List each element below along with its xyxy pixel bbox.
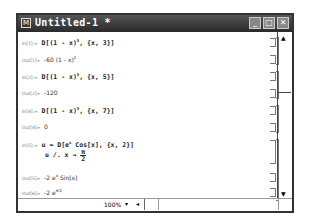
- input-text: D[(1 - x): [42, 73, 77, 81]
- cell-label: In[4]:=: [22, 109, 38, 114]
- zoom-level[interactable]: 100%: [104, 201, 121, 208]
- input-text: D[(1 - x): [42, 107, 77, 115]
- exponent: π/2: [56, 188, 62, 193]
- maximize-button[interactable]: □: [263, 17, 275, 29]
- cell-label: Out[2]=: [22, 91, 40, 96]
- denominator: 2: [81, 155, 85, 163]
- zoom-dropdown-icon[interactable]: ▾: [125, 200, 128, 207]
- input-cell-line2[interactable]: u /. x → π2: [45, 149, 86, 162]
- minimize-button[interactable]: _: [249, 17, 261, 29]
- output-text: -60 (1 - x): [44, 56, 74, 63]
- input-text: , {x, 5}]: [79, 73, 114, 81]
- cell-label: In[1]:=: [22, 41, 38, 46]
- close-button[interactable]: ✕: [277, 17, 289, 29]
- horizontal-scroll-thumb[interactable]: [144, 199, 145, 210]
- notebook-icon: M: [21, 18, 31, 28]
- input-cell[interactable]: In[1]:= D[(1 - x)5, {x, 3}]: [22, 38, 114, 47]
- cell-label: Out[6]=: [22, 191, 40, 196]
- output-text: -2 e: [44, 189, 56, 196]
- notebook-window: M Untitled-1 * _ □ ✕ In[1]:= D[(1 - x)5,…: [16, 13, 294, 213]
- scroll-up-arrow-icon[interactable]: ▲: [281, 34, 286, 41]
- output-cell: Out[4]= 0: [22, 123, 48, 130]
- cell-label: In[5]:=: [22, 143, 38, 148]
- vertical-scrollbar[interactable]: ▲ ▼: [277, 32, 292, 199]
- output-cell: Out[6]= -2 eπ/2: [22, 188, 62, 196]
- cell-label: Out[5]=: [22, 176, 40, 181]
- output-cell: Out[1]= -60 (1 - x)2: [22, 55, 76, 63]
- cell-label: Out[1]=: [22, 58, 40, 63]
- cell-label: Out[4]=: [22, 125, 40, 130]
- input-cell[interactable]: In[2]:= D[(1 - x)5, {x, 5}]: [22, 72, 114, 81]
- resize-grip[interactable]: [278, 199, 292, 210]
- window-title: Untitled-1 *: [35, 17, 111, 28]
- scroll-down-arrow-icon[interactable]: ▼: [281, 190, 286, 197]
- notebook-content[interactable]: In[1]:= D[(1 - x)5, {x, 3}] Out[1]= -60 …: [18, 32, 278, 199]
- output-text: -2 e: [44, 174, 56, 181]
- output-text: -120: [44, 89, 58, 96]
- output-cell: Out[2]= -120: [22, 89, 58, 96]
- output-text: 0: [44, 123, 48, 130]
- horizontal-scrollbar[interactable]: [158, 199, 159, 210]
- input-text: , {x, 7}]: [79, 107, 114, 115]
- input-text: D[(1 - x): [42, 39, 77, 47]
- exponent: 2: [74, 55, 77, 60]
- output-cell: Out[5]= -2 ex Sin[x]: [22, 173, 77, 181]
- status-bar: 100% ▾ ◂: [18, 198, 292, 211]
- input-text: u = D[e: [42, 141, 69, 149]
- input-cell[interactable]: In[5]:= u = D[ex Cos[x], {x, 2}]: [22, 140, 134, 149]
- scroll-left-arrow-icon[interactable]: ◂: [136, 200, 139, 207]
- fraction: π2: [80, 149, 86, 162]
- input-cell[interactable]: In[4]:= D[(1 - x)5, {x, 7}]: [22, 106, 114, 115]
- output-text: Sin[x]: [58, 174, 77, 181]
- cell-label: In[2]:=: [22, 75, 38, 80]
- scroll-thumb[interactable]: [278, 92, 291, 93]
- input-text: u /. x →: [45, 151, 80, 159]
- input-text: , {x, 3}]: [79, 39, 114, 47]
- title-bar[interactable]: M Untitled-1 * _ □ ✕: [18, 15, 292, 32]
